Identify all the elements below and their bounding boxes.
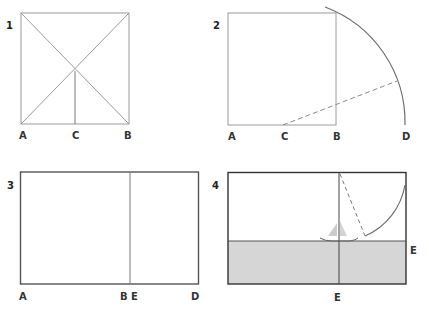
panel-1: 1 A C B <box>6 13 132 141</box>
panel-number-3: 3 <box>7 180 14 191</box>
label-d: D <box>402 131 410 142</box>
panel-number-4: 4 <box>212 180 219 191</box>
label-e-bottom: E <box>334 292 341 303</box>
label-b: B <box>333 131 341 142</box>
label-c: C <box>281 131 288 142</box>
label-a: A <box>19 291 27 302</box>
label-a: A <box>19 130 27 141</box>
golden-ratio-diagram: 1 A C B 2 A C B D 3 A B E D 4 <box>0 0 429 315</box>
label-e-right: E <box>410 245 417 256</box>
label-c: C <box>72 130 79 141</box>
label-b: B <box>124 130 132 141</box>
arc-4 <box>365 185 405 236</box>
dashed-radius <box>283 81 397 125</box>
label-d: D <box>191 291 199 302</box>
panel-3: 3 A B E D <box>7 172 199 302</box>
label-a: A <box>228 131 236 142</box>
panel-number-1: 1 <box>6 20 13 31</box>
panel-4: 4 E E <box>212 173 417 304</box>
panel-number-2: 2 <box>213 20 220 31</box>
golden-rectangle <box>21 172 199 284</box>
panel-2: 2 A C B D <box>213 7 410 142</box>
arc-2 <box>325 7 405 125</box>
square-2 <box>228 13 336 125</box>
dashed-line-4 <box>340 174 365 236</box>
sea-area <box>228 241 406 284</box>
label-be: B E <box>120 291 138 302</box>
